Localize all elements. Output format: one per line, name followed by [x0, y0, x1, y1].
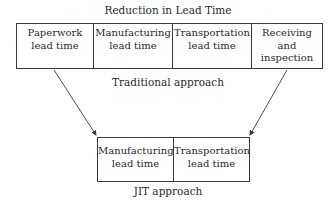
- right-arrow: [250, 70, 287, 135]
- jit-cell-manufacturing-lead-time: Manufacturing lead time: [98, 138, 174, 181]
- jit-cell-transportation-lead-time: Transportation lead time: [174, 138, 249, 181]
- jit-approach-label: JIT approach: [0, 185, 336, 197]
- jit-approach-box: Manufacturing lead time Transportation l…: [97, 137, 250, 182]
- left-arrow: [54, 70, 96, 135]
